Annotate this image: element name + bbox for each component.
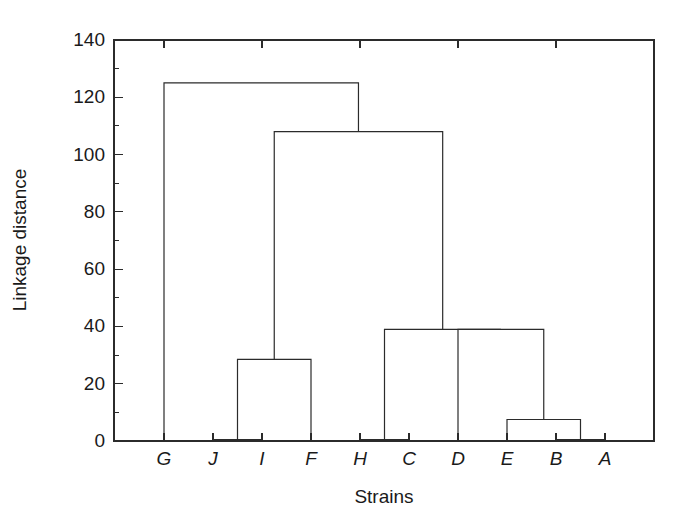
dendrogram-chart: 020406080100120140 GJIFHCDEBA Strains Li… (0, 0, 688, 524)
leaf-label-j: J (207, 448, 218, 469)
y-tick-label: 60 (84, 258, 105, 279)
leaf-label-c: C (402, 448, 416, 469)
y-tick-label: 120 (73, 86, 105, 107)
dendrogram-figure: 020406080100120140 GJIFHCDEBA Strains Li… (0, 0, 688, 524)
y-tick-label: 40 (84, 315, 105, 336)
y-axis-title: Linkage distance (9, 169, 30, 312)
leaf-label-a: A (598, 448, 612, 469)
leaf-label-g: G (157, 448, 172, 469)
y-tick-label: 80 (84, 201, 105, 222)
y-tick-label: 20 (84, 373, 105, 394)
y-tick-label: 140 (73, 29, 105, 50)
y-tick-label: 0 (94, 430, 105, 451)
leaf-label-b: B (550, 448, 563, 469)
leaf-label-i: I (259, 448, 265, 469)
x-axis-title: Strains (354, 486, 413, 507)
y-tick-label: 100 (73, 144, 105, 165)
leaf-label-e: E (501, 448, 514, 469)
leaf-label-d: D (451, 448, 465, 469)
leaf-label-f: F (305, 448, 318, 469)
leaf-label-h: H (353, 448, 367, 469)
